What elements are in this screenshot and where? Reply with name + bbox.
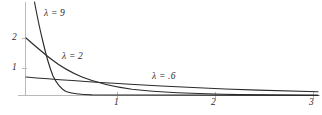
curve-label-lambda-point-6: λ = .6 [152,72,176,82]
exponential-density-figure: 2 1 1 2 3 λ = 9 λ = 2 λ = .6 [0,0,322,115]
y-axis-tick-label-2: 2 [12,33,17,43]
x-axis-tick-label-2: 2 [211,98,216,108]
y-axis-tick-label-1: 1 [12,63,17,73]
curve-label-lambda-9: λ = 9 [44,9,65,19]
x-axis-tick-label-3: 3 [309,98,314,108]
curve-label-lambda-2: λ = 2 [62,52,83,62]
x-axis-tick-label-1: 1 [114,98,119,108]
